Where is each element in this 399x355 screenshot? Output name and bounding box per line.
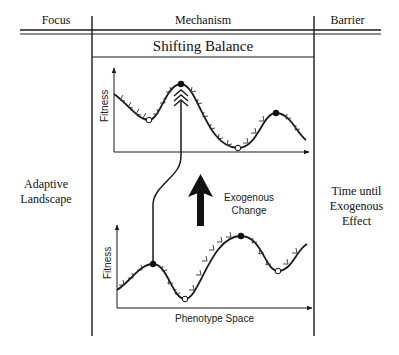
lower-fitness-plot [117, 225, 312, 308]
lower-peak-marker-2 [238, 233, 244, 239]
upper-peak-marker-2 [273, 110, 279, 116]
exogenous-change-label-line2: Change [214, 204, 284, 217]
lower-y-axis-label: Fitness [101, 249, 115, 279]
lower-x-axis-label: Phenotype Space [117, 313, 312, 324]
lower-valley-marker-2 [275, 268, 281, 274]
lower-landscape-curve [117, 236, 307, 299]
transition-path [153, 100, 181, 262]
upper-valley-marker-1 [146, 117, 152, 123]
upper-fitness-plot [114, 68, 309, 152]
upper-y-axis-label: Fitness [98, 92, 112, 122]
exogenous-change-label-line1: Exogenous [214, 191, 284, 204]
diagram-canvas [0, 0, 399, 355]
upper-peak-marker-1 [178, 81, 184, 87]
lower-gradient-chevrons [119, 232, 297, 294]
upper-valley-marker-2 [235, 145, 241, 151]
lower-peak-marker-1 [150, 261, 156, 267]
upper-gradient-chevrons [120, 87, 300, 145]
upper-landscape-curve [114, 84, 306, 148]
exogenous-change-arrow [188, 174, 213, 226]
exogenous-change-label: Exogenous Change [214, 191, 284, 217]
lower-valley-marker-1 [182, 296, 188, 302]
header-rule [20, 30, 381, 34]
